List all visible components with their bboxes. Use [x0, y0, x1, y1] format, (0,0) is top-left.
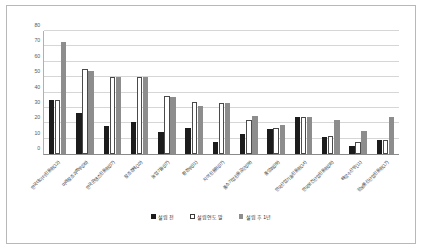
bar — [349, 146, 354, 154]
bar-group — [153, 31, 180, 154]
bar-group — [71, 31, 98, 154]
bar-group — [344, 31, 371, 154]
bar — [328, 136, 333, 154]
bar-group — [317, 31, 344, 154]
chart-legend: 설립 전설립연도 말설립 후 1년 — [7, 213, 415, 220]
bar — [377, 140, 382, 154]
bar — [273, 128, 278, 154]
legend-item[interactable]: 설립 전 — [151, 213, 174, 220]
bar — [76, 113, 81, 155]
bar — [198, 106, 203, 154]
y-axis-tick-label: 70 — [27, 37, 40, 43]
bar — [280, 125, 285, 154]
bar — [49, 100, 54, 154]
y-axis-tick-label: 30 — [27, 99, 40, 105]
x-axis-label-cell: 농업기술(07) — [153, 157, 180, 209]
legend-item[interactable]: 설립연도 말 — [190, 213, 223, 220]
legend-label: 설립 후 1년 — [246, 213, 271, 220]
x-axis-labels: 한국데이터진흥원(12)미래창조과학부(06)한국콘텐츠진흥원(07)창조경제(… — [43, 157, 399, 209]
y-axis-tick-label: 20 — [27, 114, 40, 120]
bar — [137, 77, 142, 154]
bar — [252, 116, 257, 154]
legend-swatch-icon — [239, 214, 244, 219]
bar — [383, 140, 388, 154]
bar-group — [44, 31, 71, 154]
bar — [240, 134, 245, 154]
x-axis-label-cell: 중소기업진흥공단(09) — [235, 157, 262, 209]
x-axis-label: 한국데이터진흥원(12) — [30, 159, 61, 190]
bar — [192, 102, 197, 154]
y-axis-tick-label: 80 — [27, 22, 40, 28]
y-axis-tick-label: 10 — [27, 130, 40, 136]
bar-group — [372, 31, 399, 154]
bar — [355, 142, 360, 154]
bar — [82, 69, 87, 154]
bar-group — [208, 31, 235, 154]
bar — [361, 131, 366, 154]
bar-group — [99, 31, 126, 154]
legend-label: 설립 전 — [158, 213, 174, 220]
bar — [55, 100, 60, 154]
bar — [170, 97, 175, 154]
x-axis-label-cell: 정보통신산업진흥원(17) — [372, 157, 399, 209]
y-axis-tick-label: 0 — [27, 145, 40, 151]
legend-item[interactable]: 설립 후 1년 — [239, 213, 271, 220]
bar-group — [290, 31, 317, 154]
bar — [389, 117, 394, 154]
bar — [301, 117, 306, 154]
bar — [334, 120, 339, 154]
bar — [213, 142, 218, 154]
bar — [246, 120, 251, 154]
x-axis-label-cell: 한국보건산업진흥원(08) — [317, 157, 344, 209]
bar — [116, 77, 121, 154]
x-axis-label: 창조경제(10) — [123, 159, 143, 179]
legend-swatch-icon — [151, 214, 156, 219]
bar-group — [126, 31, 153, 154]
bar — [104, 126, 109, 154]
legend-label: 설립연도 말 — [197, 213, 223, 220]
x-axis-label: 농업기술(07) — [150, 159, 170, 179]
bar — [164, 96, 169, 154]
x-axis-label-cell: 창조경제(10) — [125, 157, 152, 209]
plot-area: 01020304050607080 — [43, 31, 399, 155]
bar — [322, 137, 327, 154]
x-axis-label: 중앙회(09) — [262, 159, 280, 177]
y-axis-tick-label: 50 — [27, 68, 40, 74]
legend-swatch-icon — [190, 214, 195, 219]
bar — [88, 71, 93, 154]
bar — [185, 128, 190, 154]
x-axis-label-cell: 한국콘텐츠진흥원(07) — [98, 157, 125, 209]
bar-groups — [44, 31, 399, 154]
bar — [225, 103, 230, 154]
bar — [110, 77, 115, 154]
bar — [219, 103, 224, 154]
x-axis-label-cell: 환경부(01) — [180, 157, 207, 209]
bar — [267, 129, 272, 154]
bar-group — [263, 31, 290, 154]
bar-group — [181, 31, 208, 154]
bar — [295, 117, 300, 154]
y-axis-tick-label: 40 — [27, 84, 40, 90]
bar — [158, 132, 163, 154]
chart-figure: 01020304050607080 한국데이터진흥원(12)미래창조과학부(06… — [6, 5, 416, 244]
bar — [143, 77, 148, 154]
x-axis-label: 환경부(01) — [180, 159, 198, 177]
bar — [131, 122, 136, 154]
bar — [307, 117, 312, 154]
bar — [61, 42, 66, 154]
bar-group — [235, 31, 262, 154]
y-axis-tick-label: 60 — [27, 53, 40, 59]
